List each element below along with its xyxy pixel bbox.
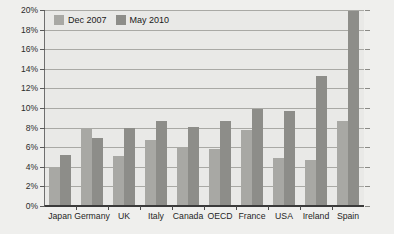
y-axis-label: 2%	[4, 181, 38, 191]
bar	[188, 127, 199, 205]
legend-swatch-icon-dec2007	[54, 15, 64, 25]
y-axis-tick-right	[365, 30, 370, 31]
y-axis-tick	[40, 206, 45, 207]
y-axis-label: 20%	[4, 5, 38, 15]
x-axis-label: USA	[275, 211, 293, 221]
chart-legend: Dec 2007 May 2010	[52, 14, 174, 26]
y-axis-label: 6%	[4, 142, 38, 152]
legend-label-dec2007: Dec 2007	[68, 15, 107, 25]
x-axis-label: Japan	[48, 211, 72, 221]
bar	[60, 155, 71, 205]
x-axis-tick	[332, 206, 333, 210]
x-axis-tick	[268, 206, 269, 210]
y-axis-tick-right	[365, 49, 370, 50]
x-axis-tick	[108, 206, 109, 210]
bar-group	[45, 10, 77, 205]
y-axis-tick-right	[365, 69, 370, 70]
y-axis-label: 4%	[4, 162, 38, 172]
bar-group	[109, 10, 141, 205]
bar-group	[333, 10, 365, 205]
bar-group	[269, 10, 301, 205]
bar	[305, 160, 316, 205]
y-axis-tick-right	[365, 108, 370, 109]
x-axis-tick	[204, 206, 205, 210]
y-axis-tick-right	[365, 206, 370, 207]
y-axis-tick-right	[365, 167, 370, 168]
y-axis-label: 18%	[4, 25, 38, 35]
y-axis-tick-right	[365, 147, 370, 148]
y-axis-label: 8%	[4, 123, 38, 133]
bar	[145, 140, 156, 205]
y-axis-label: 14%	[4, 64, 38, 74]
bar	[177, 147, 188, 205]
y-axis-label: 12%	[4, 83, 38, 93]
y-axis-tick-right	[365, 128, 370, 129]
legend-entry-may2010: May 2010	[116, 15, 170, 25]
bar-group	[173, 10, 205, 205]
bar-chart: 0%2%4%6%8%10%12%14%16%18%20% JapanGerman…	[0, 0, 394, 234]
bar	[49, 168, 60, 205]
x-axis-label: Ireland	[303, 211, 330, 221]
bar	[220, 121, 231, 205]
x-axis-label: Spain	[337, 211, 359, 221]
x-axis-label: Canada	[173, 211, 203, 221]
x-axis-tick	[76, 206, 77, 210]
y-axis-tick-right	[365, 88, 370, 89]
legend-entry-dec2007: Dec 2007	[54, 15, 107, 25]
x-axis-tick	[172, 206, 173, 210]
legend-swatch-icon-may2010	[116, 15, 126, 25]
bar	[209, 149, 220, 205]
x-axis-label: Germany	[74, 211, 110, 221]
bar-group	[301, 10, 333, 205]
bar	[92, 138, 103, 205]
y-axis-tick-right	[365, 10, 370, 11]
bar	[252, 109, 263, 205]
x-axis-label: OECD	[207, 211, 232, 221]
bar	[81, 128, 92, 205]
bar	[241, 130, 252, 205]
x-axis-label: UK	[118, 211, 130, 221]
bar	[337, 121, 348, 205]
bar-group	[77, 10, 109, 205]
x-axis-tick	[236, 206, 237, 210]
x-axis-label: Italy	[148, 211, 164, 221]
bar-group	[205, 10, 237, 205]
y-axis-label: 10%	[4, 103, 38, 113]
x-axis-label: France	[238, 211, 265, 221]
bar	[124, 128, 135, 205]
bar	[316, 76, 327, 205]
bar-group	[237, 10, 269, 205]
bar-group	[141, 10, 173, 205]
plot-area	[44, 10, 364, 206]
y-axis-tick-right	[365, 186, 370, 187]
bars-layer	[45, 10, 364, 205]
y-axis-label: 16%	[4, 44, 38, 54]
x-axis-tick	[300, 206, 301, 210]
bar	[156, 121, 167, 205]
bar	[113, 156, 124, 205]
bar	[284, 111, 295, 205]
y-axis-label: 0%	[4, 201, 38, 211]
x-axis-tick	[140, 206, 141, 210]
bar	[273, 158, 284, 205]
bar	[348, 11, 359, 205]
legend-label-may2010: May 2010	[130, 15, 170, 25]
